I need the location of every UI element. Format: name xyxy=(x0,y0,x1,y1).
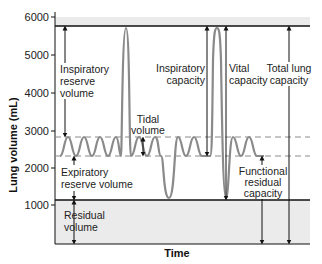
x-axis-title: Time xyxy=(164,247,189,259)
svg-text:volume: volume xyxy=(60,87,94,99)
svg-text:Inspiratory: Inspiratory xyxy=(156,62,206,74)
svg-text:capacity: capacity xyxy=(166,74,205,86)
top-shaded-band xyxy=(55,17,310,26)
ic-label: Inspiratory capacity xyxy=(156,62,206,86)
svg-text:reserve volume: reserve volume xyxy=(61,178,133,190)
tick-2000: 2000 xyxy=(25,162,49,174)
svg-text:Expiratory: Expiratory xyxy=(61,166,109,178)
frc-label: Functional residual capacity xyxy=(239,165,287,199)
tick-6000: 6000 xyxy=(25,11,49,23)
svg-text:Vital: Vital xyxy=(229,62,249,74)
tick-5000: 5000 xyxy=(25,49,49,61)
svg-text:Inspiratory: Inspiratory xyxy=(60,63,110,75)
svg-text:capacity: capacity xyxy=(229,74,268,86)
lung-volume-chart: 6000 5000 4000 3000 2000 1000 Lung volum… xyxy=(0,0,322,264)
y-ticks xyxy=(51,17,55,205)
tidal-label: Tidal volume xyxy=(131,113,165,136)
erv-label: Expiratory reserve volume xyxy=(60,165,133,191)
tlc-label: Total lung capacity xyxy=(267,62,312,86)
irv-label: Inspiratory reserve volume xyxy=(59,63,121,99)
tick-3000: 3000 xyxy=(25,125,49,137)
y-axis-title: Lung volume (mL) xyxy=(7,97,19,193)
svg-text:volume: volume xyxy=(131,124,165,136)
svg-text:volume: volume xyxy=(64,221,98,233)
svg-text:Residual: Residual xyxy=(64,209,105,221)
svg-text:capacity: capacity xyxy=(270,74,309,86)
svg-text:reserve: reserve xyxy=(60,75,95,87)
svg-text:capacity: capacity xyxy=(244,187,283,199)
svg-text:Total lung: Total lung xyxy=(267,62,312,74)
tick-4000: 4000 xyxy=(25,87,49,99)
vc-label: Vital capacity xyxy=(228,62,268,86)
tick-1000: 1000 xyxy=(25,199,49,211)
